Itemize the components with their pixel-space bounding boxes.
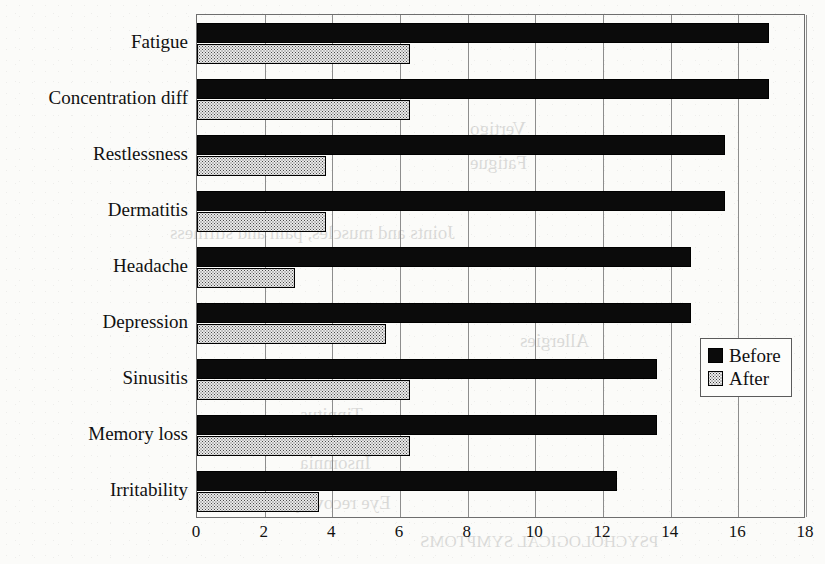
bar-after: [197, 100, 410, 120]
value-axis-labels: 024681012141618: [196, 522, 805, 548]
bar-group: [197, 127, 804, 183]
legend-label-after: After: [729, 369, 769, 388]
x-axis-tick-label: 14: [661, 522, 678, 542]
category-label: Headache: [0, 255, 188, 277]
bar-group: [197, 71, 804, 127]
bar-before: [197, 79, 769, 99]
category-label: Dermatitis: [0, 199, 188, 221]
bar-after: [197, 156, 326, 176]
bar-group: [197, 463, 804, 519]
plot-area: [196, 14, 805, 518]
bar-before: [197, 23, 769, 43]
category-label: Memory loss: [0, 423, 188, 445]
legend-item-before: Before: [708, 344, 784, 367]
bar-before: [197, 191, 725, 211]
bar-group: [197, 239, 804, 295]
bar-before: [197, 415, 657, 435]
chart-title: [0, 0, 825, 1]
legend-item-after: After: [708, 367, 784, 390]
bar-after: [197, 324, 386, 344]
bar-after: [197, 380, 410, 400]
category-label: Restlessness: [0, 143, 188, 165]
category-label: Concentration diff: [0, 87, 188, 109]
dotted-square-icon: [708, 371, 723, 386]
black-square-icon: [708, 348, 723, 363]
bar-chart: FatigueConcentration diffRestlessnessDer…: [0, 0, 825, 564]
x-axis-tick-label: 18: [797, 522, 814, 542]
bar-series-container: [197, 15, 804, 517]
gridline: [806, 15, 807, 517]
x-axis-tick-label: 12: [594, 522, 611, 542]
bar-before: [197, 471, 617, 491]
x-axis-tick-label: 6: [395, 522, 404, 542]
bar-group: [197, 407, 804, 463]
bar-after: [197, 436, 410, 456]
category-label: Depression: [0, 311, 188, 333]
x-axis-tick-label: 16: [729, 522, 746, 542]
bar-before: [197, 359, 657, 379]
bar-group: [197, 183, 804, 239]
chart-legend: Before After: [700, 338, 792, 397]
x-axis-tick-label: 10: [526, 522, 543, 542]
bar-before: [197, 247, 691, 267]
bar-after: [197, 44, 410, 64]
bar-group: [197, 15, 804, 71]
x-axis-tick-label: 8: [462, 522, 471, 542]
x-axis-tick-label: 0: [192, 522, 201, 542]
bar-after: [197, 492, 319, 512]
category-label: Irritability: [0, 479, 188, 501]
bar-after: [197, 212, 326, 232]
x-axis-tick-label: 2: [259, 522, 268, 542]
category-axis-labels: FatigueConcentration diffRestlessnessDer…: [0, 14, 188, 518]
legend-label-before: Before: [729, 346, 781, 365]
category-label: Fatigue: [0, 31, 188, 53]
category-label: Sinusitis: [0, 367, 188, 389]
bar-after: [197, 268, 295, 288]
x-axis-tick-label: 4: [327, 522, 336, 542]
bar-before: [197, 135, 725, 155]
bar-before: [197, 303, 691, 323]
